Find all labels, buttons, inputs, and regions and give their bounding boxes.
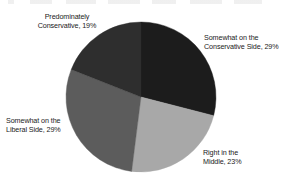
slice-label-somewhat-conservative-side: Somewhat on the Conservative Side, 29% bbox=[204, 33, 279, 51]
chart-plot-area: Somewhat on the Conservative Side, 29% R… bbox=[0, 0, 292, 185]
pie-slices-group bbox=[66, 22, 216, 172]
pie-chart-figure: Somewhat on the Conservative Side, 29% R… bbox=[0, 0, 292, 185]
slice-label-somewhat-liberal-side: Somewhat on the Liberal Side, 29% bbox=[6, 116, 61, 134]
slice-label-right-in-the-middle: Right in the Middle, 23% bbox=[203, 148, 241, 166]
slice-label-predominately-conservative: Predominately Conservative, 19% bbox=[24, 12, 110, 30]
